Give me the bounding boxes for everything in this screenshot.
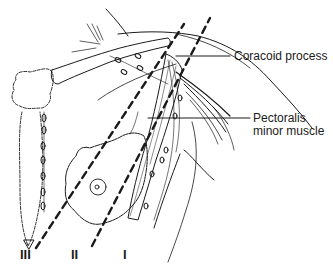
manubrium bbox=[12, 69, 53, 109]
nipple bbox=[95, 185, 99, 189]
internal-mammary-nodes bbox=[41, 112, 46, 212]
breast-outline bbox=[65, 133, 147, 224]
level-iii-label: III bbox=[20, 248, 31, 262]
areola bbox=[90, 179, 106, 195]
level-i-label: I bbox=[123, 248, 127, 262]
level-boundary-medial bbox=[36, 24, 184, 248]
coracoid-process-label: Coracoid process bbox=[234, 50, 327, 63]
sternum-body bbox=[20, 112, 43, 246]
axillary-nodes bbox=[110, 53, 182, 209]
clavicle bbox=[51, 38, 170, 84]
neck-outline bbox=[106, 9, 128, 36]
pectoralis-minor-label-line2: minor muscle bbox=[253, 125, 324, 138]
level-ii-label: II bbox=[71, 248, 78, 262]
level-boundary-lateral bbox=[92, 18, 210, 246]
axillary-levels-diagram: Coracoid process Pectoralis minor muscle… bbox=[0, 0, 333, 269]
